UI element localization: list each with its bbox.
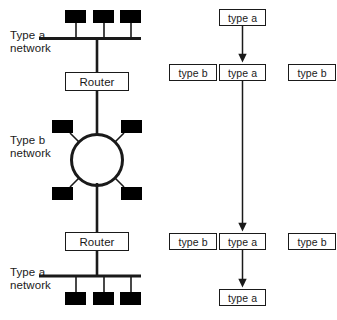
protocol-stack-panel: type a type b type a type b type b type … — [180, 0, 337, 320]
network-label-type-a-top: Type a network — [10, 29, 51, 55]
ring-station-node — [52, 187, 73, 200]
router-box-top: Router — [65, 72, 129, 91]
station-node — [120, 10, 141, 23]
diagram-canvas: Type a network Type b network Type a net… — [0, 0, 337, 320]
ring-stub — [115, 133, 124, 142]
network-topology-panel: Type a network Type b network Type a net… — [0, 0, 180, 320]
protocol-box-row1-center-type-a: type a — [219, 64, 266, 81]
station-node — [120, 292, 141, 305]
ring-circle — [72, 135, 123, 186]
bus-segment-bottom — [39, 276, 141, 305]
ring-stub — [70, 133, 79, 142]
bus-segment-top — [39, 10, 141, 39]
protocol-box-bottom-type-a: type a — [219, 289, 266, 306]
ring-stub — [115, 178, 124, 187]
protocol-box-top-type-a: type a — [219, 9, 266, 26]
ring-stub — [70, 178, 79, 187]
protocol-box-row2-center-type-a: type a — [219, 233, 266, 250]
router-box-bottom: Router — [65, 232, 129, 251]
ring-station-node — [121, 120, 142, 133]
station-node — [93, 292, 114, 305]
network-label-type-b: Type b network — [10, 134, 51, 160]
protocol-box-row1-right-type-b: type b — [288, 64, 336, 81]
station-node — [93, 10, 114, 23]
protocol-arrows — [180, 0, 337, 320]
station-node — [65, 10, 86, 23]
ring-station-node — [121, 187, 142, 200]
station-node — [65, 292, 86, 305]
protocol-box-row1-left-type-b: type b — [169, 64, 217, 81]
protocol-box-row2-right-type-b: type b — [288, 233, 336, 250]
protocol-box-row2-left-type-b: type b — [169, 233, 217, 250]
ring-station-node — [52, 120, 73, 133]
network-label-type-a-bottom: Type a network — [10, 266, 51, 292]
